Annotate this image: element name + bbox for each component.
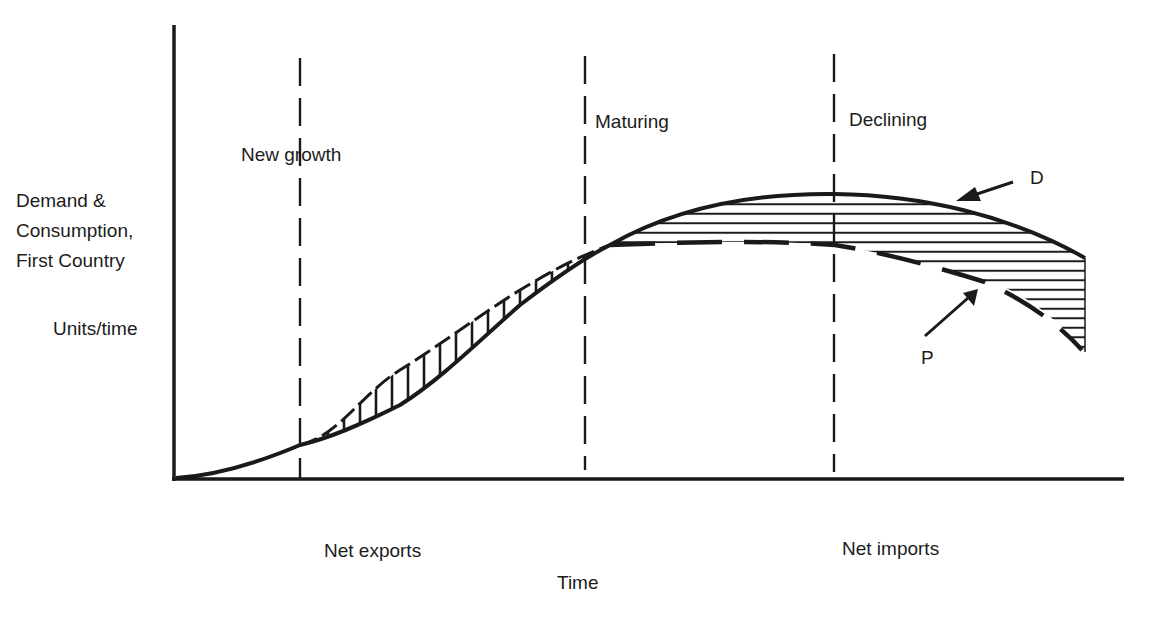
y-axis-units: Units/time (53, 318, 137, 340)
trade-label-net-exports: Net exports (324, 540, 421, 562)
arrow-to-D (956, 182, 1013, 201)
product-life-cycle-diagram: Demand & Consumption, First Country Unit… (0, 0, 1160, 619)
y-axis-label-line-3: First Country (16, 246, 133, 276)
stage-label-declining: Declining (849, 109, 927, 131)
curve-label-P: P (921, 347, 934, 369)
stage-label-maturing: Maturing (595, 111, 669, 133)
trade-label-net-imports: Net imports (842, 538, 939, 560)
y-axis-label-line-2: Consumption, (16, 216, 133, 246)
y-axis-label-line-1: Demand & (16, 186, 133, 216)
stage-label-new-growth: New growth (241, 144, 341, 166)
arrow-to-P (925, 289, 978, 336)
y-axis-label: Demand & Consumption, First Country (16, 186, 133, 276)
x-axis-label: Time (557, 572, 599, 594)
curve-label-D: D (1030, 167, 1044, 189)
diagram-canvas (0, 0, 1160, 619)
